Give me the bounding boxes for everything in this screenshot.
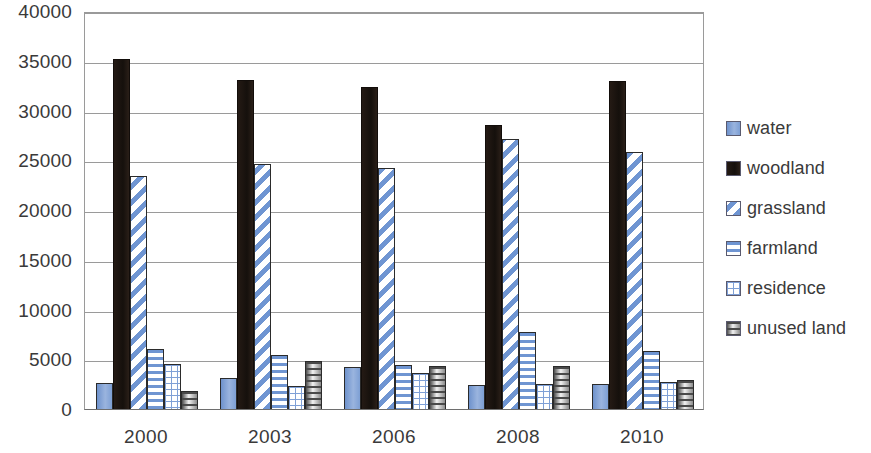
y-tick-label: 15000 <box>18 250 72 272</box>
legend: waterwoodlandgrasslandfarmlandresidenceu… <box>726 108 871 348</box>
legend-label: grassland <box>747 198 826 219</box>
bar-grassland-2008 <box>502 139 519 409</box>
bar-group-2000 <box>85 13 209 409</box>
x-tick-label: 2010 <box>620 426 664 448</box>
y-tick-label: 30000 <box>18 101 72 123</box>
bar-grassland-2006 <box>378 168 395 409</box>
bar-residence-2010 <box>660 382 677 409</box>
bar-farmland-2006 <box>395 365 412 409</box>
bar-group-2006 <box>333 13 457 409</box>
bar-residence-2008 <box>536 384 553 409</box>
bar-group-2010 <box>581 13 705 409</box>
bar-grassland-2000 <box>130 176 147 409</box>
legend-swatch-residence-icon <box>726 281 741 296</box>
legend-label: water <box>747 118 792 139</box>
bar-unused-land-2000 <box>181 391 198 409</box>
legend-label: farmland <box>747 238 818 259</box>
bar-unused-land-2010 <box>677 380 694 409</box>
y-tick-label: 0 <box>61 399 72 421</box>
legend-item-unused-land[interactable]: unused land <box>726 308 871 348</box>
x-tick-label: 2006 <box>372 426 416 448</box>
bar-water-2000 <box>96 383 113 409</box>
y-tick-label: 40000 <box>18 1 72 23</box>
y-tick-label: 20000 <box>18 200 72 222</box>
bar-group-2003 <box>209 13 333 409</box>
bar-woodland-2008 <box>485 125 502 409</box>
legend-swatch-unused-land-icon <box>726 321 741 336</box>
x-axis: 20002003200620082010 <box>84 420 704 453</box>
legend-label: woodland <box>747 158 825 179</box>
legend-item-woodland[interactable]: woodland <box>726 148 871 188</box>
bar-woodland-2010 <box>609 81 626 409</box>
x-tick-label: 2003 <box>248 426 292 448</box>
plot-area <box>84 12 704 410</box>
bar-woodland-2006 <box>361 87 378 409</box>
bars-layer <box>85 13 703 409</box>
legend-label: residence <box>747 278 826 299</box>
bar-chart: 0500010000150002000025000300003500040000… <box>0 0 871 453</box>
bar-farmland-2000 <box>147 349 164 409</box>
bar-residence-2000 <box>164 364 181 409</box>
bar-grassland-2003 <box>254 164 271 409</box>
legend-swatch-grassland-icon <box>726 201 741 216</box>
y-axis: 0500010000150002000025000300003500040000 <box>0 0 78 420</box>
x-tick-label: 2008 <box>496 426 540 448</box>
bar-water-2010 <box>592 384 609 409</box>
legend-item-residence[interactable]: residence <box>726 268 871 308</box>
legend-swatch-water-icon <box>726 121 741 136</box>
legend-swatch-farmland-icon <box>726 241 741 256</box>
bar-farmland-2003 <box>271 355 288 409</box>
y-tick-label: 35000 <box>18 51 72 73</box>
y-tick-label: 10000 <box>18 300 72 322</box>
bar-farmland-2008 <box>519 332 536 409</box>
bar-residence-2006 <box>412 373 429 409</box>
legend-item-water[interactable]: water <box>726 108 871 148</box>
x-tick-label: 2000 <box>124 426 168 448</box>
bar-unused-land-2003 <box>305 361 322 409</box>
legend-label: unused land <box>747 318 846 339</box>
bar-unused-land-2006 <box>429 366 446 409</box>
bar-woodland-2003 <box>237 80 254 409</box>
bar-unused-land-2008 <box>553 366 570 409</box>
bar-group-2008 <box>457 13 581 409</box>
bar-grassland-2010 <box>626 152 643 409</box>
bar-farmland-2010 <box>643 351 660 409</box>
legend-item-farmland[interactable]: farmland <box>726 228 871 268</box>
legend-swatch-woodland-icon <box>726 161 741 176</box>
bar-water-2006 <box>344 367 361 409</box>
y-tick-label: 5000 <box>29 349 72 371</box>
y-tick-label: 25000 <box>18 150 72 172</box>
bar-water-2008 <box>468 385 485 409</box>
bar-woodland-2000 <box>113 59 130 409</box>
bar-water-2003 <box>220 378 237 409</box>
legend-item-grassland[interactable]: grassland <box>726 188 871 228</box>
bar-residence-2003 <box>288 386 305 409</box>
